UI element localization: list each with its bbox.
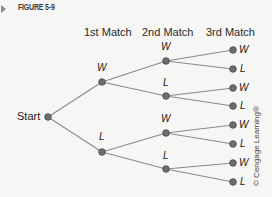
leaf-label-6: L [240, 138, 246, 149]
leaf-node [230, 85, 237, 92]
tree-edges [48, 50, 233, 182]
leaf-node [230, 103, 237, 110]
node-2nd-lw [163, 130, 170, 137]
leaf-label-2: L [240, 63, 246, 74]
leaf-label-5: W [239, 119, 248, 130]
node-2nd-ww [163, 58, 170, 65]
node-label-1st-w: W [97, 62, 106, 73]
copyright-credit: © Cengage Learning® [252, 106, 261, 186]
node-label-2nd-1: W [161, 41, 170, 52]
node-label-2nd-4: L [163, 150, 169, 161]
leaf-label-7: W [239, 157, 248, 168]
leaf-label-1: W [239, 44, 248, 55]
tree-nodes [45, 47, 237, 186]
leaf-node [230, 66, 237, 73]
leaf-label-4: L [240, 100, 246, 111]
node-label-2nd-2: L [163, 77, 169, 88]
node-1st-l [99, 149, 106, 156]
node-label-2nd-3: W [161, 113, 170, 124]
start-label: Start [17, 110, 40, 122]
node-1st-w [99, 79, 106, 86]
leaf-node [230, 160, 237, 167]
tree-diagram [0, 0, 272, 197]
leaf-node [230, 179, 237, 186]
leaf-node [230, 47, 237, 54]
leaf-node [230, 122, 237, 129]
node-label-1st-l: L [99, 131, 105, 142]
start-node [45, 114, 52, 121]
node-2nd-wl [163, 93, 170, 100]
leaf-label-3: W [239, 82, 248, 93]
leaf-label-8: L [240, 176, 246, 187]
node-2nd-ll [163, 166, 170, 173]
leaf-node [230, 141, 237, 148]
